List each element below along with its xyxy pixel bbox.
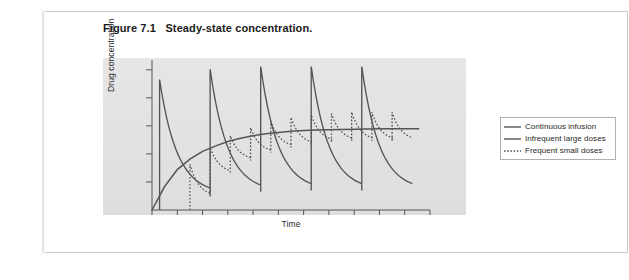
figure-root: Figure 7.1 Steady-state concentration. D…	[0, 0, 629, 280]
x-axis-label: Time	[152, 219, 430, 229]
figure-title: Figure 7.1 Steady-state concentration.	[103, 22, 312, 34]
plot-canvas	[103, 58, 466, 215]
curve-frequent-small-doses	[190, 112, 412, 210]
curve-infrequent-large-doses	[160, 67, 413, 210]
x-axis-ticks	[152, 210, 430, 215]
curve-continuous-infusion	[152, 129, 419, 210]
legend-line-solid-icon	[504, 135, 521, 143]
axis-lines	[152, 60, 430, 210]
legend-item-infrequent-large-doses: Infrequent large doses	[504, 133, 611, 145]
y-axis-ticks	[146, 70, 152, 182]
legend-label: Frequent small doses	[525, 146, 602, 156]
legend: Continuous infusion Infrequent large dos…	[500, 117, 616, 160]
legend-line-solid-icon	[504, 123, 521, 131]
y-axis-label: Drug concentration	[106, 0, 116, 92]
legend-label: Continuous infusion	[525, 122, 596, 132]
legend-item-frequent-small-doses: Frequent small doses	[504, 145, 611, 157]
legend-line-dotted-icon	[504, 147, 521, 155]
legend-label: Infrequent large doses	[525, 134, 606, 144]
legend-item-continuous-infusion: Continuous infusion	[504, 121, 611, 133]
